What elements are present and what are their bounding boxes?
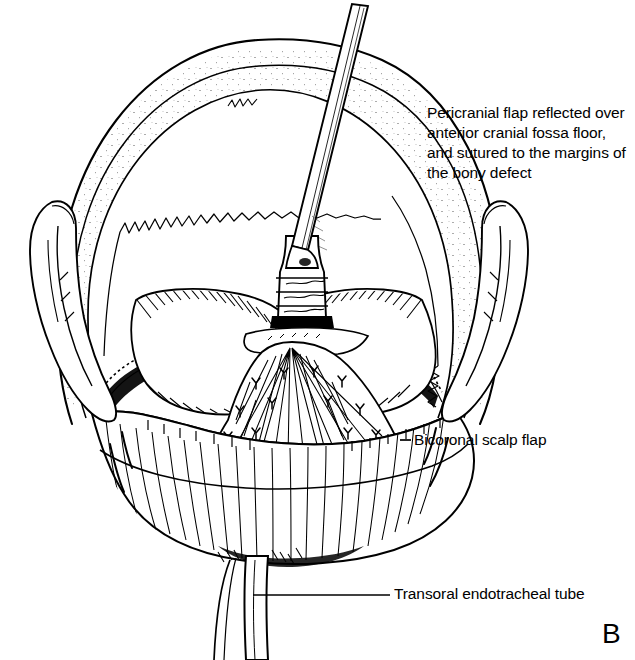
- callout-transoral-endotracheal-tube: Transoral endotracheal tube: [394, 584, 629, 604]
- surgical-figure-panel: Pericranial flap reflected over anterior…: [0, 0, 635, 660]
- figure-panel-letter: B: [602, 620, 621, 648]
- callout-pericranial-flap: Pericranial flap reflected over anterior…: [427, 103, 627, 183]
- illustration-canvas: [0, 0, 635, 660]
- callout-bicoronal-scalp-flap: Bicoronal scalp flap: [414, 430, 629, 450]
